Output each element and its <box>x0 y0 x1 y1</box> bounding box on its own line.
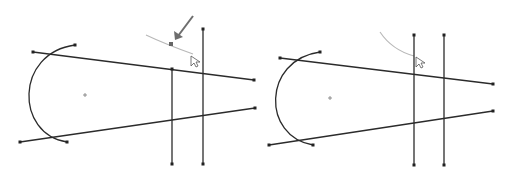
panel-before-vertical-line-1-start-point[interactable] <box>171 68 174 71</box>
panel-after-vertical-line-1-start-point[interactable] <box>413 34 416 37</box>
panel-after-bottom-line-end-point[interactable] <box>492 110 495 113</box>
panel-after-mouse-cursor-icon <box>416 57 425 68</box>
panel-after-preview-curve <box>380 32 414 56</box>
panel-after-arc-end-point[interactable] <box>312 144 315 147</box>
panel-before-mouse-cursor-icon <box>191 56 200 67</box>
panel-before-top-line-end-point[interactable] <box>253 79 256 82</box>
panel-after-top-line[interactable] <box>280 58 493 84</box>
panel-before-vertical-line-2-start-point[interactable] <box>202 28 205 31</box>
panel-after-vertical-line-2-end-point[interactable] <box>443 164 446 167</box>
panel-after-arc[interactable] <box>276 52 320 145</box>
sketch-canvas[interactable] <box>0 0 512 174</box>
panel-after-top-line-end-point[interactable] <box>492 83 495 86</box>
panel-after-vertical-line-2-start-point[interactable] <box>443 34 446 37</box>
panel-before-top-line-start-point[interactable] <box>32 51 35 54</box>
panel-before-arrow-shaft <box>178 16 193 36</box>
panel-before-bottom-line-end-point[interactable] <box>254 107 257 110</box>
panel-before-arc-end-point[interactable] <box>66 141 69 144</box>
panel-after-bottom-line-start-point[interactable] <box>268 144 271 147</box>
sketch-drawing[interactable] <box>0 0 512 174</box>
panel-before-top-line[interactable] <box>33 52 254 80</box>
panel-before-vertical-line-2-end-point[interactable] <box>202 163 205 166</box>
panel-before-drag-handle[interactable] <box>169 42 173 46</box>
panel-before-arc[interactable] <box>29 45 75 142</box>
panel-before-bottom-line-start-point[interactable] <box>19 141 22 144</box>
panel-before-vertical-line-1-end-point[interactable] <box>171 163 174 166</box>
panel-before-arc-center-icon <box>83 93 87 97</box>
panel-before-arc-start-point[interactable] <box>74 44 77 47</box>
panel-after-top-line-start-point[interactable] <box>279 57 282 60</box>
panel-after-bottom-line[interactable] <box>269 111 493 145</box>
panel-before-bottom-line[interactable] <box>20 108 255 142</box>
panel-after-arc-start-point[interactable] <box>319 51 322 54</box>
panel-after-vertical-line-1-end-point[interactable] <box>413 164 416 167</box>
panel-after-arc-center-icon <box>328 96 332 100</box>
